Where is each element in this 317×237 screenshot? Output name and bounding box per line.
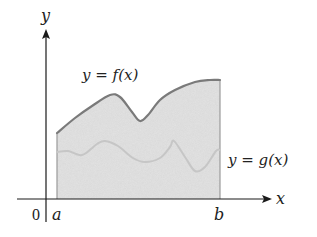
area-between-curves-diagram: y x 0 a b y = f(x) y = g(x)	[0, 0, 317, 237]
shaded-region	[57, 80, 220, 199]
f-curve-label: y = f(x)	[81, 66, 138, 84]
y-axis-label: y	[40, 6, 51, 25]
b-label: b	[214, 205, 224, 224]
a-label: a	[52, 205, 62, 224]
g-curve-label: y = g(x)	[227, 151, 288, 169]
x-axis-label: x	[276, 189, 285, 208]
origin-label: 0	[32, 206, 40, 223]
